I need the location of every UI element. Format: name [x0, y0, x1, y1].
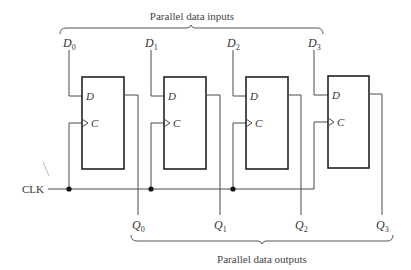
input-label-d1: D1: [144, 36, 158, 52]
output-wire-q0: [124, 95, 138, 215]
input-wire-d2: [233, 50, 246, 96]
output-label-q1: Q1: [214, 218, 227, 234]
junction-dot-0: [66, 186, 71, 191]
stray-mark: [43, 162, 49, 176]
clock-wire-1: [151, 123, 164, 189]
pin-d-0: D: [85, 90, 94, 102]
clock-wire-2: [233, 123, 246, 189]
input-label-d0: D0: [62, 36, 76, 52]
clock-wire-0: [69, 123, 82, 189]
input-wire-d1: [151, 50, 164, 96]
pin-d-3: D: [331, 89, 340, 101]
clock-wire-3: [314, 122, 328, 189]
pin-c-3: C: [337, 116, 345, 128]
inputs-brace: [60, 25, 323, 34]
input-label-d3: D3: [307, 36, 321, 52]
flip-flop-3: D3 D C Q3: [307, 36, 389, 234]
inputs-caption: Parallel data inputs: [150, 10, 234, 22]
flip-flop-1: D1 D C Q1: [144, 36, 227, 234]
output-wire-q3: [369, 94, 382, 215]
outputs-caption: Parallel data outputs: [217, 253, 307, 265]
junction-dot-1: [148, 186, 153, 191]
pin-d-1: D: [167, 90, 176, 102]
outputs-brace: [131, 235, 393, 244]
pin-d-2: D: [249, 90, 258, 102]
output-wire-q2: [288, 95, 301, 215]
pin-c-1: C: [173, 117, 181, 129]
pin-c-0: C: [91, 117, 99, 129]
flip-flop-0: D0 D C Q0: [62, 36, 145, 234]
output-label-q2: Q2: [295, 218, 308, 234]
register-diagram: Parallel data inputs Parallel data outpu…: [0, 0, 411, 270]
output-label-q0: Q0: [132, 218, 145, 234]
output-wire-q1: [206, 95, 220, 215]
input-wire-d0: [69, 50, 82, 96]
clock-label: CLK: [22, 183, 44, 195]
pin-c-2: C: [255, 117, 263, 129]
input-label-d2: D2: [226, 36, 240, 52]
flip-flop-2: D2 D C Q2: [226, 36, 308, 234]
input-wire-d3: [314, 50, 328, 95]
output-label-q3: Q3: [376, 218, 389, 234]
junction-dot-2: [230, 186, 235, 191]
